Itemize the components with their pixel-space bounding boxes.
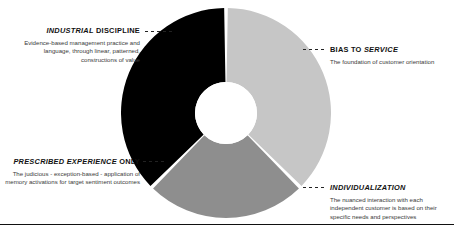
callout-prescribed-experience: PRESCRIBED EXPERIENCE ONLY The judicious… (4, 157, 140, 187)
callout-bias-heading: BIAS TO SERVICE (330, 45, 448, 55)
callout-industrial-discipline: INDUSTRIAL DISCIPLINE Evidence-based man… (14, 26, 140, 64)
callout-bias-to-service: BIAS TO SERVICE The foundation of custom… (330, 45, 448, 66)
callout-industrial-heading: INDUSTRIAL DISCIPLINE (14, 26, 140, 36)
callout-prescribed-heading: PRESCRIBED EXPERIENCE ONLY (4, 157, 140, 167)
callout-individualization-heading: INDIVIDUALIZATION (330, 183, 450, 193)
callout-industrial-body: Evidence-based management practice and l… (14, 39, 140, 64)
donut-chart (121, 8, 331, 218)
callout-bias-heading-plain: BIAS TO (330, 45, 362, 54)
infographic-canvas: INDUSTRIAL DISCIPLINE Evidence-based man… (0, 0, 454, 232)
callout-industrial-heading-emphasis: INDUSTRIAL (46, 26, 93, 35)
connector-line-individualization (303, 187, 327, 188)
callout-prescribed-heading-plain: ONLY (119, 157, 140, 166)
callout-bias-body: The foundation of customer orientation (330, 58, 448, 66)
callout-bias-heading-emphasis: SERVICE (364, 45, 398, 54)
callout-prescribed-body: The judicious - exception-based - applic… (4, 170, 140, 187)
bottom-divider (0, 224, 454, 225)
callout-individualization-body: The nuanced interaction with each indepe… (330, 196, 450, 221)
callout-individualization: INDIVIDUALIZATION The nuanced interactio… (330, 183, 450, 221)
connector-line-prescribed (143, 161, 167, 162)
connector-line-bias-to-service (303, 49, 327, 50)
callout-individualization-heading-emphasis: INDIVIDUALIZATION (330, 183, 406, 192)
callout-industrial-heading-plain: DISCIPLINE (96, 26, 140, 35)
donut-center-hole (195, 82, 257, 144)
callout-prescribed-heading-emphasis: PRESCRIBED EXPERIENCE (13, 157, 116, 166)
connector-line-industrial (145, 31, 173, 32)
